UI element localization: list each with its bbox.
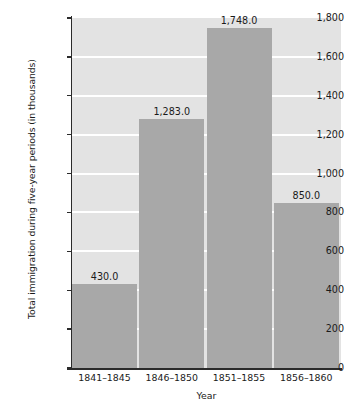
- y-tick-mark: [67, 173, 71, 174]
- y-tick-label: 1,600: [284, 52, 350, 62]
- y-axis-line: [71, 16, 72, 369]
- y-tick-label: 800: [284, 207, 350, 217]
- y-tick-mark: [67, 251, 71, 252]
- bar-value-label: 430.0: [72, 271, 137, 282]
- bar: [207, 28, 272, 368]
- x-tick-label: 1851–1855: [201, 372, 278, 384]
- y-axis-title: Total immigration during five-year perio…: [22, 4, 42, 374]
- y-tick-mark: [67, 56, 71, 57]
- y-tick-label: 1,800: [284, 13, 350, 23]
- y-tick-label: 1,400: [284, 91, 350, 101]
- bar: [72, 284, 137, 368]
- bar-value-label: 1,283.0: [139, 106, 204, 117]
- bar: [139, 119, 204, 368]
- bar-value-label: 1,748.0: [207, 15, 272, 26]
- y-tick-mark: [67, 328, 71, 329]
- x-tick-label: 1841–1845: [66, 372, 143, 384]
- y-tick-mark: [67, 290, 71, 291]
- y-tick-mark: [67, 17, 71, 18]
- y-tick-label: 600: [284, 246, 350, 256]
- x-tick-label: 1846–1850: [133, 372, 210, 384]
- y-tick-label: 1,000: [284, 169, 350, 179]
- y-tick-mark: [67, 367, 71, 368]
- y-tick-mark: [67, 212, 71, 213]
- y-tick-mark: [67, 95, 71, 96]
- bar-chart: Total immigration during five-year perio…: [0, 0, 350, 411]
- x-axis-title: Year: [72, 390, 341, 402]
- y-tick-label: 1,200: [284, 130, 350, 140]
- y-tick-label: 200: [284, 324, 350, 334]
- y-tick-mark: [67, 134, 71, 135]
- bar-value-label: 850.0: [274, 190, 339, 201]
- y-tick-label: 400: [284, 285, 350, 295]
- x-tick-label: 1856–1860: [268, 372, 345, 384]
